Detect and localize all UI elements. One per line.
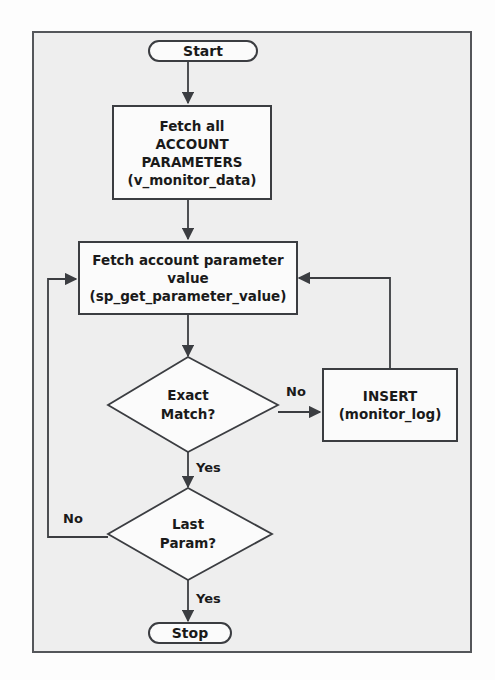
edge-label-exact-match-yes: Yes [196, 460, 221, 475]
node-fetch-all-line-1: Fetch all [160, 117, 225, 135]
node-stop[interactable]: Stop [148, 622, 232, 644]
shape-last-param-diamond [108, 488, 272, 580]
node-fetch-all-parameters[interactable]: Fetch all ACCOUNT PARAMETERS (v_monitor_… [112, 105, 272, 200]
node-insert-line-1: INSERT [363, 387, 417, 405]
shape-exact-match-diamond [108, 357, 278, 452]
node-stop-label: Stop [172, 625, 208, 641]
edge-insert-to-fetch-value [299, 278, 390, 368]
edge-last-param-no-to-fetch-value [48, 279, 108, 537]
edge-label-last-param-no: No [63, 511, 83, 526]
node-fetch-value-line-2: value [167, 269, 208, 287]
node-fetch-all-line-3: PARAMETERS [141, 153, 242, 171]
node-fetch-all-line-2: ACCOUNT [155, 135, 228, 153]
node-start-label: Start [183, 43, 223, 59]
edge-label-last-param-yes: Yes [196, 591, 221, 606]
node-fetch-value-line-3: (sp_get_parameter_value) [90, 287, 287, 305]
node-fetch-all-line-4: (v_monitor_data) [128, 171, 257, 189]
node-start[interactable]: Start [148, 40, 258, 62]
node-insert-line-2: (monitor_log) [339, 405, 442, 423]
flowchart-page: Start Fetch all ACCOUNT PARAMETERS (v_mo… [0, 0, 495, 680]
node-fetch-value-line-1: Fetch account parameter [92, 251, 283, 269]
edge-label-exact-match-no: No [286, 384, 306, 399]
node-fetch-account-parameter-value[interactable]: Fetch account parameter value (sp_get_pa… [78, 241, 298, 315]
node-insert-monitor-log[interactable]: INSERT (monitor_log) [322, 368, 458, 442]
flowchart-connectors [0, 0, 495, 680]
